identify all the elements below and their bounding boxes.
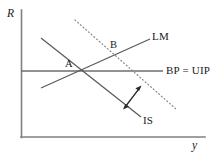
- diagram-canvas: [0, 0, 221, 156]
- point-a-label: A: [65, 59, 73, 70]
- bp-uip-curve-label: BP = UIP: [166, 65, 210, 76]
- x-axis-label: y: [192, 140, 197, 152]
- shift-arrow-inward: [123, 90, 138, 110]
- point-b-label: B: [110, 40, 117, 51]
- is-curve-label: IS: [143, 115, 153, 126]
- lm-curve-label: LM: [152, 31, 169, 42]
- is-lm-bp-figure: R y LM IS BP = UIP A B: [0, 0, 221, 156]
- y-axis-label: R: [7, 8, 14, 20]
